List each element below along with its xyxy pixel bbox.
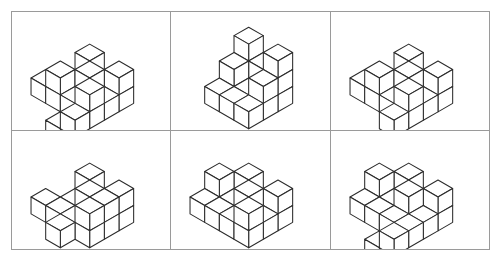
figure-6-drawing — [331, 131, 489, 249]
figure-5-container — [171, 131, 329, 249]
figure-2-drawing — [171, 12, 329, 130]
figure-4-container — [12, 131, 170, 249]
figure-1-drawing — [12, 12, 170, 130]
figure-1-container — [12, 12, 170, 130]
figure-cell-4[interactable] — [12, 131, 171, 250]
figure-grid-row — [12, 131, 490, 250]
figure-2-container — [171, 12, 329, 130]
figure-cell-2[interactable] — [171, 12, 330, 131]
figure-6-container — [331, 131, 489, 249]
figure-grid-row — [12, 12, 490, 131]
screenshot-canvas — [0, 0, 500, 262]
figure-3-container — [331, 12, 489, 130]
figure-cell-6[interactable] — [330, 131, 489, 250]
figure-grid — [11, 11, 490, 250]
figure-cell-5[interactable] — [171, 131, 330, 250]
figure-5-drawing — [171, 131, 329, 249]
figure-cell-3[interactable] — [330, 12, 489, 131]
figure-cell-1[interactable] — [12, 12, 171, 131]
figure-4-drawing — [12, 131, 170, 249]
figure-3-drawing — [331, 12, 489, 130]
